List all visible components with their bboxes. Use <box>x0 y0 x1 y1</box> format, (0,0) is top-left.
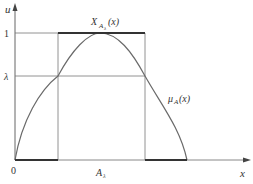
level-one-label: 1 <box>4 28 9 39</box>
x-axis-label: x <box>239 167 245 179</box>
svg-text:X: X <box>90 16 98 27</box>
y-axis-arrow-icon <box>13 3 18 11</box>
char-func-label: X A λ (x) <box>90 16 120 31</box>
level-lambda-label: λ <box>3 71 9 82</box>
svg-text:λ: λ <box>102 173 106 179</box>
x-axis-arrow-icon <box>243 158 251 163</box>
svg-text:(x): (x) <box>108 16 120 28</box>
svg-text:λ: λ <box>103 26 107 31</box>
svg-text:μ: μ <box>167 93 173 104</box>
cut-set-label: A λ <box>95 167 106 179</box>
membership-label: μ A (x) <box>167 93 191 106</box>
origin-label: 0 <box>11 165 16 176</box>
svg-text:A: A <box>95 167 103 178</box>
svg-text:(x): (x) <box>179 93 191 105</box>
y-axis-label: u <box>5 3 11 15</box>
membership-curve <box>15 33 187 160</box>
lambda-cut-diagram: u x 0 1 λ X A λ (x) μ A (x) A λ <box>0 0 253 184</box>
